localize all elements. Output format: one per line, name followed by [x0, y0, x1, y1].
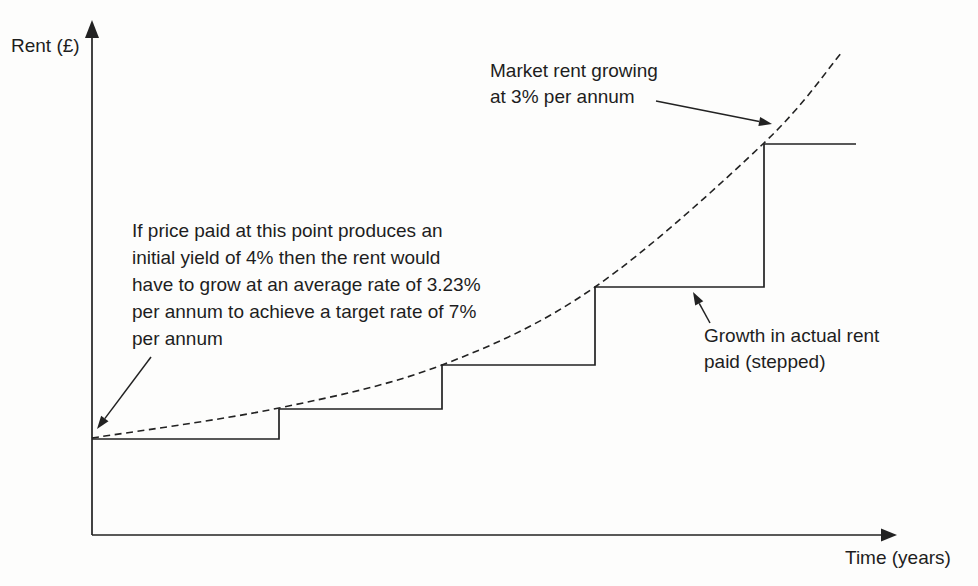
y-axis-head [85, 20, 99, 38]
market-rent-label-arrow-line [656, 101, 759, 121]
price-yield-note-arrow-head [97, 416, 108, 429]
actual-rent-label-arrow-line [699, 303, 710, 323]
annotation-actual-rent-label: Growth in actual rent paid (stepped) [704, 323, 879, 375]
figure-canvas: Rent (£) Time (years) Market rent growin… [0, 0, 978, 586]
annotation-price-yield-note: If price paid at this point produces an … [132, 217, 481, 352]
x-axis-head [881, 529, 897, 542]
y-axis-label: Rent (£) [11, 33, 80, 59]
annotation-market-rent-label: Market rent growing at 3% per annum [490, 58, 658, 110]
x-axis-label: Time (years) [845, 545, 951, 571]
price-yield-note-arrow-line [105, 357, 151, 419]
market-rent-label-arrow-head [758, 117, 772, 126]
actual-rent-label-arrow-head [693, 292, 703, 306]
